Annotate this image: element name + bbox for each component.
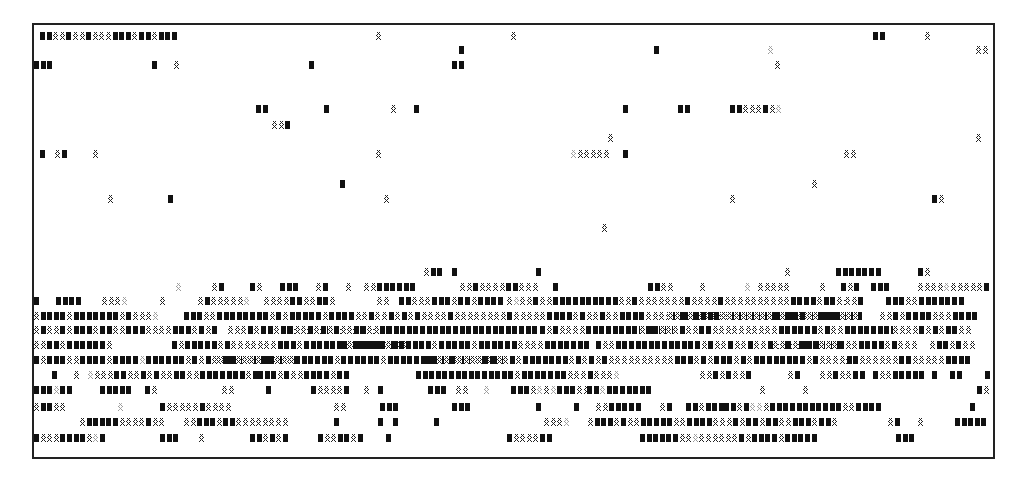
dark-block xyxy=(186,326,191,334)
dark-block xyxy=(731,403,736,411)
dark-block xyxy=(551,341,556,349)
hatched-block xyxy=(428,312,433,320)
hatched-block xyxy=(41,434,46,442)
dark-block xyxy=(724,403,729,411)
light-block xyxy=(944,283,949,291)
dark-block xyxy=(876,268,881,276)
dark-block xyxy=(843,268,848,276)
dark-block xyxy=(792,326,797,334)
hatched-block xyxy=(272,121,277,129)
hatched-block xyxy=(526,283,531,291)
dark-block xyxy=(288,326,293,334)
dark-block xyxy=(431,268,436,276)
dark-block xyxy=(620,312,625,320)
hatched-block xyxy=(845,297,850,305)
dark-block xyxy=(541,371,546,379)
dark-block xyxy=(317,341,322,349)
dark-block xyxy=(966,312,971,320)
dark-block xyxy=(701,312,706,320)
dark-block xyxy=(833,312,838,320)
dark-block xyxy=(459,403,464,411)
hatched-block xyxy=(846,371,851,379)
dark-block xyxy=(384,283,389,291)
dark-block xyxy=(205,297,210,305)
hatched-block xyxy=(604,150,609,158)
hatched-block xyxy=(646,297,651,305)
dark-block xyxy=(878,283,883,291)
dark-block xyxy=(858,326,863,334)
hatched-block xyxy=(880,356,885,364)
dark-block xyxy=(308,356,313,364)
hatched-block xyxy=(437,356,442,364)
dark-block xyxy=(435,386,440,394)
hatched-block xyxy=(976,46,981,54)
dark-block xyxy=(608,418,613,426)
hatched-block xyxy=(838,326,843,334)
hatched-block xyxy=(514,312,519,320)
dark-block xyxy=(787,312,792,320)
dark-block xyxy=(258,371,263,379)
hatched-block xyxy=(371,283,376,291)
dark-block xyxy=(406,341,411,349)
dark-block xyxy=(262,356,267,364)
dark-block xyxy=(74,341,79,349)
dark-block xyxy=(660,434,665,442)
dark-block xyxy=(626,312,631,320)
hatched-block xyxy=(606,312,611,320)
hatched-block xyxy=(933,312,938,320)
hatched-block xyxy=(452,297,457,305)
dark-block xyxy=(774,356,779,364)
dark-block xyxy=(586,297,591,305)
dark-block xyxy=(620,386,625,394)
light-block xyxy=(176,283,181,291)
hatched-block xyxy=(601,371,606,379)
dark-block xyxy=(459,341,464,349)
hatched-block xyxy=(820,356,825,364)
hatched-block xyxy=(263,434,268,442)
dark-block xyxy=(873,32,878,40)
dark-block xyxy=(486,326,491,334)
hatched-block xyxy=(270,312,275,320)
hatched-block xyxy=(719,434,724,442)
dark-block xyxy=(311,386,316,394)
dark-block xyxy=(892,341,897,349)
dark-block xyxy=(230,418,235,426)
hatched-block xyxy=(591,150,596,158)
dark-block xyxy=(429,371,434,379)
hatched-block xyxy=(578,150,583,158)
dark-block xyxy=(304,371,309,379)
hatched-block xyxy=(488,312,493,320)
dark-block xyxy=(334,418,339,426)
dark-block xyxy=(330,341,335,349)
hatched-block xyxy=(746,326,751,334)
dark-block xyxy=(694,418,699,426)
hatched-block xyxy=(741,312,746,320)
hatched-block xyxy=(531,386,536,394)
hatched-block xyxy=(609,356,614,364)
dark-block xyxy=(263,312,268,320)
dark-block xyxy=(126,312,131,320)
light-block xyxy=(118,403,123,411)
hatched-block xyxy=(732,326,737,334)
hatched-block xyxy=(289,356,294,364)
hatched-block xyxy=(900,326,905,334)
dark-block xyxy=(884,283,889,291)
hatched-block xyxy=(780,312,785,320)
dark-block xyxy=(533,297,538,305)
dark-block xyxy=(797,297,802,305)
dark-block xyxy=(266,386,271,394)
hatched-block xyxy=(424,268,429,276)
dark-block xyxy=(589,356,594,364)
hatched-block xyxy=(846,341,851,349)
dark-block xyxy=(107,312,112,320)
dark-block xyxy=(426,341,431,349)
dark-block xyxy=(685,297,690,305)
dark-block xyxy=(760,356,765,364)
dark-block xyxy=(388,356,393,364)
dark-block xyxy=(268,326,273,334)
hatched-block xyxy=(335,356,340,364)
hatched-block xyxy=(538,341,543,349)
hatched-block xyxy=(951,283,956,291)
hatched-block xyxy=(34,341,39,349)
dark-block xyxy=(40,32,45,40)
